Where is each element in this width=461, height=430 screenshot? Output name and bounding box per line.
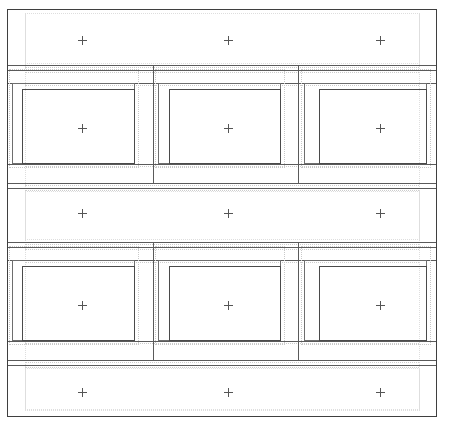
cell-inner-box[interactable] [319,89,427,164]
column-divider-rule [298,243,299,360]
band-divider-guide [25,190,419,191]
cell-inner-box[interactable] [22,89,135,164]
band-divider-rule [8,65,436,66]
column-divider-rule [153,66,154,183]
wireframe-canvas [0,0,461,430]
band-divider-guide [25,244,419,245]
cell-inner-box[interactable] [319,266,427,341]
band-divider-rule [8,183,436,184]
band-divider-rule [8,360,436,361]
band-guide-5 [25,368,420,410]
band-guide-1 [25,13,420,64]
column-divider-rule [153,243,154,360]
band-divider-guide [25,367,419,368]
band-divider-guide [25,185,419,186]
band-divider-rule [8,365,436,366]
band-divider-guide [25,362,419,363]
band-divider-rule [8,242,436,243]
cell-inner-box[interactable] [169,266,281,341]
band-divider-guide [25,67,419,68]
column-divider-rule [298,66,299,183]
band-divider-rule [8,188,436,189]
band-guide-3 [25,191,420,240]
cell-inner-box[interactable] [22,266,135,341]
cell-inner-box[interactable] [169,89,281,164]
